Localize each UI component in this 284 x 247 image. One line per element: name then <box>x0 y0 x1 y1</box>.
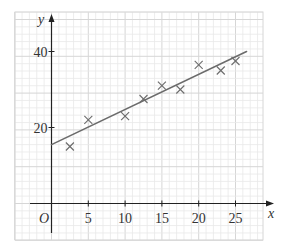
x-tick-label: 20 <box>192 211 206 226</box>
data-point-x-marker <box>66 143 74 151</box>
plot-border <box>15 12 263 240</box>
x-tick-label: 5 <box>85 211 92 226</box>
data-point-x-marker <box>176 86 184 94</box>
tick-labels: 5101520252040 <box>34 45 243 226</box>
y-axis-label: y <box>36 12 45 27</box>
y-axis-arrow-icon <box>49 14 55 22</box>
x-tick-label: 15 <box>155 211 169 226</box>
y-tick-label: 40 <box>34 45 48 60</box>
scatter-chart: 5101520252040 x y O <box>0 0 284 247</box>
origin-label: O <box>39 211 49 226</box>
x-axis-label: x <box>267 206 275 221</box>
x-tick-label: 10 <box>118 211 132 226</box>
y-tick-label: 20 <box>34 121 48 136</box>
axis-labels: x y O <box>36 12 275 226</box>
x-tick-label: 25 <box>229 211 243 226</box>
